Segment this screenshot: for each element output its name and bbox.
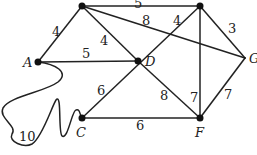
edge-A-D: [38, 61, 138, 62]
edge-G-F: [200, 58, 245, 118]
weight-C-F: 6: [136, 118, 144, 133]
weight-B-G: 8: [142, 13, 150, 28]
node-label-A: A: [22, 55, 32, 70]
node-label-G: G: [249, 51, 257, 66]
node-label-F: F: [194, 125, 205, 140]
weight-D-C: 6: [97, 83, 105, 98]
node-label-C: C: [76, 125, 86, 140]
node-D: [135, 58, 142, 65]
weight-A-B: 4: [52, 24, 60, 39]
edge-A-C-curvy: [2, 62, 82, 145]
node-C: [79, 115, 86, 122]
node-A: [35, 59, 42, 66]
weight-E-C: 4: [173, 13, 181, 28]
node-label-D: D: [144, 54, 156, 69]
edge-B-G: [82, 6, 245, 58]
weight-B-D: 4: [100, 33, 108, 48]
weight-B-E: 5: [134, 0, 142, 11]
graph-diagram: 4 5 8 4 5 4 3 7 6 8 6 7 10 A D G C F: [0, 0, 257, 155]
node-E: [197, 3, 204, 10]
node-G: [244, 57, 246, 59]
weight-E-F: 7: [190, 90, 198, 105]
weight-G-F: 7: [224, 87, 232, 102]
node-F: [197, 115, 204, 122]
node-B: [79, 3, 86, 10]
weight-A-C: 10: [19, 129, 36, 144]
weight-D-F: 8: [160, 88, 168, 103]
weight-E-G: 3: [228, 21, 236, 36]
weight-A-D: 5: [82, 46, 90, 61]
